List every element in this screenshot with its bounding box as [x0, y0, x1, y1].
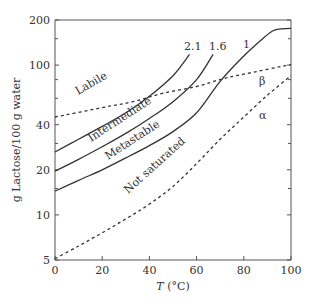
- curve-label-1: 1: [243, 38, 250, 51]
- y-tick-label: 5: [43, 254, 50, 267]
- curve-label-alpha: α: [259, 109, 267, 122]
- curve-2.1: [55, 54, 190, 152]
- x-tick-label: 40: [142, 264, 156, 277]
- y-tick-label: 200: [29, 14, 50, 27]
- y-tick-label: 40: [36, 119, 50, 132]
- y-tick-label: 10: [36, 209, 50, 222]
- y-axis-label: g Lactose/100 g water: [10, 77, 23, 202]
- x-tick-label: 20: [95, 264, 109, 277]
- y-axis-ticks: 5102040100200: [29, 14, 291, 267]
- solubility-chart: 5102040100200 020406080100 Labile Interm…: [0, 0, 312, 306]
- curve-label-1-6: 1.6: [209, 40, 227, 53]
- y-tick-label: 20: [36, 164, 50, 177]
- curve-label-2-1: 2.1: [184, 40, 202, 53]
- x-axis-ticks: 020406080100: [52, 256, 302, 277]
- x-tick-label: 100: [281, 264, 302, 277]
- x-axis-label-unit: (°C): [164, 280, 190, 293]
- x-axis-label: T (°C): [156, 280, 189, 293]
- curve-label-beta: β: [259, 75, 265, 88]
- x-tick-label: 0: [52, 264, 59, 277]
- curve-α: [55, 76, 291, 259]
- y-tick-label: 100: [29, 59, 50, 72]
- x-tick-label: 80: [237, 264, 251, 277]
- x-tick-label: 60: [190, 264, 204, 277]
- region-label-labile: Labile: [73, 69, 109, 97]
